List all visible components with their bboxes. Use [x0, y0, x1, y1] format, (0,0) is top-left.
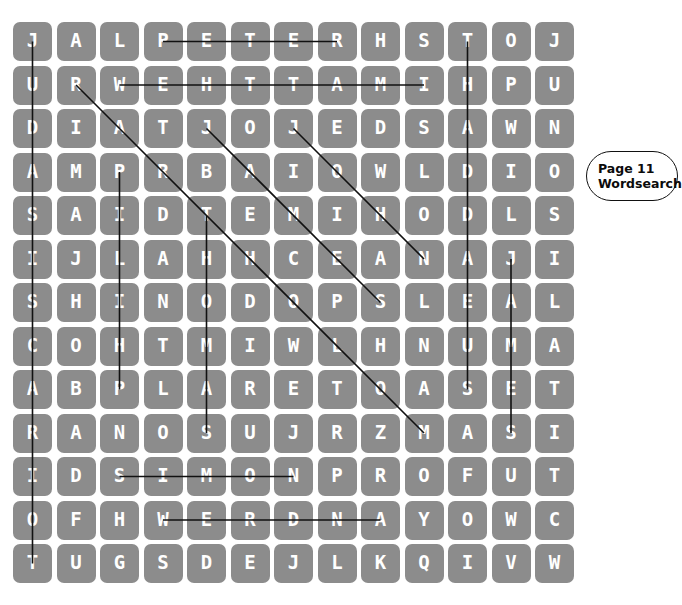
grid-cell-r12c7[interactable]: D [274, 501, 313, 540]
grid-cell-r4c7[interactable]: I [274, 153, 313, 192]
grid-cell-r9c13[interactable]: T [535, 370, 574, 409]
grid-cell-r10c5[interactable]: S [187, 414, 226, 453]
grid-cell-r6c2[interactable]: J [57, 240, 96, 279]
grid-cell-r9c10[interactable]: A [405, 370, 444, 409]
grid-cell-r7c1[interactable]: S [13, 283, 52, 322]
grid-cell-r11c11[interactable]: F [448, 457, 487, 496]
grid-cell-r13c5[interactable]: D [187, 544, 226, 583]
grid-cell-r8c9[interactable]: H [361, 327, 400, 366]
grid-cell-r6c8[interactable]: E [318, 240, 357, 279]
grid-cell-r12c2[interactable]: F [57, 501, 96, 540]
grid-cell-r12c3[interactable]: H [100, 501, 139, 540]
grid-cell-r5c9[interactable]: H [361, 196, 400, 235]
grid-cell-r4c5[interactable]: B [187, 153, 226, 192]
grid-cell-r9c1[interactable]: A [13, 370, 52, 409]
grid-cell-r8c8[interactable]: L [318, 327, 357, 366]
grid-cell-r4c10[interactable]: L [405, 153, 444, 192]
grid-cell-r9c7[interactable]: E [274, 370, 313, 409]
grid-cell-r3c9[interactable]: D [361, 109, 400, 148]
grid-cell-r5c1[interactable]: S [13, 196, 52, 235]
grid-cell-r11c10[interactable]: O [405, 457, 444, 496]
grid-cell-r8c12[interactable]: M [492, 327, 531, 366]
grid-cell-r10c8[interactable]: R [318, 414, 357, 453]
grid-cell-r8c1[interactable]: C [13, 327, 52, 366]
grid-cell-r9c3[interactable]: P [100, 370, 139, 409]
grid-cell-r5c6[interactable]: E [231, 196, 270, 235]
grid-cell-r1c1[interactable]: J [13, 22, 52, 61]
grid-cell-r12c13[interactable]: C [535, 501, 574, 540]
grid-cell-r13c8[interactable]: L [318, 544, 357, 583]
grid-cell-r13c2[interactable]: U [57, 544, 96, 583]
grid-cell-r12c12[interactable]: W [492, 501, 531, 540]
grid-cell-r4c13[interactable]: O [535, 153, 574, 192]
grid-cell-r3c10[interactable]: S [405, 109, 444, 148]
grid-cell-r7c7[interactable]: O [274, 283, 313, 322]
grid-cell-r3c13[interactable]: N [535, 109, 574, 148]
grid-cell-r1c13[interactable]: J [535, 22, 574, 61]
grid-cell-r5c13[interactable]: S [535, 196, 574, 235]
grid-cell-r6c11[interactable]: A [448, 240, 487, 279]
grid-cell-r9c8[interactable]: T [318, 370, 357, 409]
grid-cell-r12c6[interactable]: R [231, 501, 270, 540]
grid-cell-r13c7[interactable]: J [274, 544, 313, 583]
grid-cell-r8c13[interactable]: A [535, 327, 574, 366]
grid-cell-r7c8[interactable]: P [318, 283, 357, 322]
grid-cell-r13c11[interactable]: I [448, 544, 487, 583]
grid-cell-r10c12[interactable]: S [492, 414, 531, 453]
grid-cell-r1c4[interactable]: P [144, 22, 183, 61]
grid-cell-r5c11[interactable]: D [448, 196, 487, 235]
grid-cell-r7c6[interactable]: D [231, 283, 270, 322]
grid-cell-r8c7[interactable]: W [274, 327, 313, 366]
grid-cell-r10c11[interactable]: A [448, 414, 487, 453]
grid-cell-r5c5[interactable]: T [187, 196, 226, 235]
grid-cell-r11c9[interactable]: R [361, 457, 400, 496]
grid-cell-r10c10[interactable]: M [405, 414, 444, 453]
grid-cell-r12c8[interactable]: N [318, 501, 357, 540]
grid-cell-r6c7[interactable]: C [274, 240, 313, 279]
grid-cell-r12c1[interactable]: O [13, 501, 52, 540]
grid-cell-r9c6[interactable]: R [231, 370, 270, 409]
grid-cell-r12c4[interactable]: W [144, 501, 183, 540]
grid-cell-r1c7[interactable]: E [274, 22, 313, 61]
grid-cell-r11c5[interactable]: M [187, 457, 226, 496]
grid-cell-r8c4[interactable]: T [144, 327, 183, 366]
grid-cell-r8c5[interactable]: M [187, 327, 226, 366]
grid-cell-r5c2[interactable]: A [57, 196, 96, 235]
grid-cell-r10c2[interactable]: A [57, 414, 96, 453]
grid-cell-r5c8[interactable]: I [318, 196, 357, 235]
grid-cell-r9c11[interactable]: S [448, 370, 487, 409]
grid-cell-r3c4[interactable]: T [144, 109, 183, 148]
grid-cell-r3c3[interactable]: A [100, 109, 139, 148]
grid-cell-r2c10[interactable]: I [405, 66, 444, 105]
grid-cell-r4c4[interactable]: R [144, 153, 183, 192]
grid-cell-r11c13[interactable]: T [535, 457, 574, 496]
grid-cell-r11c7[interactable]: N [274, 457, 313, 496]
grid-cell-r10c1[interactable]: R [13, 414, 52, 453]
grid-cell-r11c1[interactable]: I [13, 457, 52, 496]
grid-cell-r6c9[interactable]: A [361, 240, 400, 279]
grid-cell-r13c10[interactable]: Q [405, 544, 444, 583]
grid-cell-r12c10[interactable]: Y [405, 501, 444, 540]
grid-cell-r5c7[interactable]: M [274, 196, 313, 235]
grid-cell-r5c12[interactable]: L [492, 196, 531, 235]
grid-cell-r7c3[interactable]: I [100, 283, 139, 322]
grid-cell-r3c12[interactable]: W [492, 109, 531, 148]
grid-cell-r7c10[interactable]: L [405, 283, 444, 322]
grid-cell-r12c11[interactable]: O [448, 501, 487, 540]
grid-cell-r9c9[interactable]: O [361, 370, 400, 409]
grid-cell-r10c6[interactable]: U [231, 414, 270, 453]
grid-cell-r8c10[interactable]: N [405, 327, 444, 366]
grid-cell-r3c8[interactable]: E [318, 109, 357, 148]
grid-cell-r8c11[interactable]: U [448, 327, 487, 366]
grid-cell-r1c6[interactable]: T [231, 22, 270, 61]
grid-cell-r13c9[interactable]: K [361, 544, 400, 583]
grid-cell-r13c3[interactable]: G [100, 544, 139, 583]
grid-cell-r1c3[interactable]: L [100, 22, 139, 61]
grid-cell-r3c11[interactable]: A [448, 109, 487, 148]
grid-cell-r10c7[interactable]: J [274, 414, 313, 453]
grid-cell-r10c9[interactable]: Z [361, 414, 400, 453]
grid-cell-r11c3[interactable]: S [100, 457, 139, 496]
grid-cell-r2c6[interactable]: T [231, 66, 270, 105]
grid-cell-r1c10[interactable]: S [405, 22, 444, 61]
grid-cell-r8c3[interactable]: H [100, 327, 139, 366]
